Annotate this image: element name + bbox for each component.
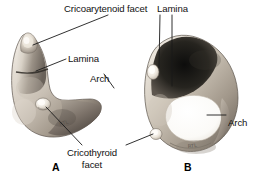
specimen-photographs: RTL RTL (0, 0, 264, 180)
label-lamina-panel-a: Lamina (68, 53, 99, 64)
specimen-b-superior-view: RTL (145, 35, 238, 154)
anatomical-figure-plate: RTL RTL (0, 0, 264, 180)
label-cricoarytenoid-facet: Cricoarytenoid facet (64, 3, 147, 14)
panel-letter-b: B (184, 162, 192, 173)
leader-cricoarytenoid-to-a (33, 15, 108, 45)
leader-cricothyroid-b (126, 134, 153, 145)
specimen-a-lateral-view: RTL (12, 33, 102, 137)
label-cricothyroid-facet: Cricothyroid facet (61, 147, 123, 170)
label-lamina-panel-b: Lamina (157, 3, 188, 14)
label-arch-panel-b: Arch (228, 117, 247, 128)
specimen-b-scale-mark: RTL (187, 142, 197, 149)
panel-letter-a: A (52, 162, 60, 173)
label-arch-panel-a: Arch (90, 73, 109, 84)
